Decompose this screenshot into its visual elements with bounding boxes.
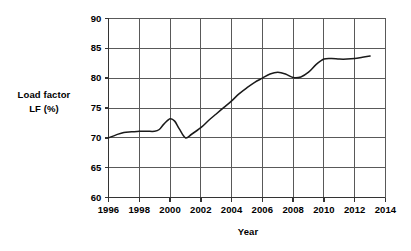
data-line-0 bbox=[109, 56, 371, 138]
data-series-group bbox=[109, 56, 371, 138]
grid-lines bbox=[109, 19, 386, 198]
plot-area bbox=[0, 0, 411, 251]
tick-marks bbox=[105, 19, 386, 202]
chart-figure: Load factor LF (%) Year 60657075808590 1… bbox=[0, 0, 411, 251]
